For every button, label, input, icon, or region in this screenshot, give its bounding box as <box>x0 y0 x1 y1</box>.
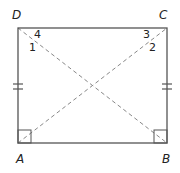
vertex-label-b: B <box>162 152 170 166</box>
vertex-label-d: D <box>12 8 21 22</box>
vertex-label-c: C <box>159 8 168 22</box>
angle-label-1: 1 <box>29 41 36 54</box>
rectangle-diagram: D C A B 4 1 3 2 <box>0 0 180 173</box>
angle-label-3: 3 <box>143 28 150 41</box>
angle-label-4: 4 <box>34 28 41 41</box>
vertex-label-a: A <box>15 152 24 166</box>
angle-label-2: 2 <box>149 41 156 54</box>
